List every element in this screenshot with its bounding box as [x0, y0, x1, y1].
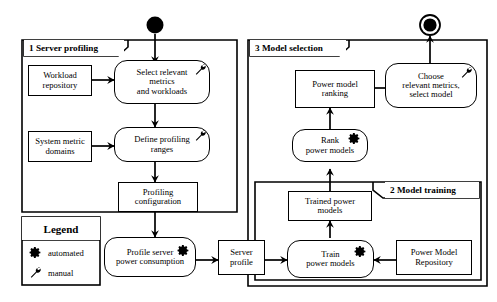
node-rank-power-models[interactable]: Rankpower models: [292, 129, 368, 162]
wrench-icon: [194, 63, 207, 76]
legend-item-manual: manual: [29, 266, 73, 279]
gear-icon: [29, 246, 42, 259]
node-label: Trained powermodels: [305, 197, 355, 216]
node-label: Power modelranking: [312, 80, 358, 99]
node-label: Chooserelevant metrics,select model: [402, 72, 459, 100]
node-label: Select relevantmetricsand workloads: [137, 68, 188, 96]
wrench-icon: [460, 66, 473, 79]
node-system-metric-domains[interactable]: System metricdomains: [28, 131, 92, 162]
node-select-metrics[interactable]: Select relevantmetricsand workloads: [114, 60, 210, 104]
node-label: Trainpower models: [306, 250, 354, 269]
legend-label-manual: manual: [48, 268, 73, 278]
node-label: Serverprofile: [230, 248, 253, 267]
node-label: Profile serverpower consumption: [116, 248, 184, 267]
end-node: [420, 15, 440, 35]
frame-label-server-profiling: 1 Server profiling: [24, 40, 124, 56]
legend-label-automated: automated: [48, 248, 84, 258]
legend-title: Legend: [22, 217, 100, 240]
start-node: [147, 17, 164, 34]
node-profiling-configuration[interactable]: Profilingconfiguration: [118, 182, 198, 212]
node-choose-metrics[interactable]: Chooserelevant metrics,select model: [385, 63, 477, 108]
legend-item-automated: automated: [29, 246, 84, 259]
node-label: Define profilingranges: [134, 135, 190, 154]
gear-icon: [354, 245, 367, 258]
wrench-icon: [194, 129, 207, 142]
frame-label-model-training: 2 Model training: [385, 182, 479, 198]
gear-icon: [177, 244, 190, 257]
node-label: Profilingconfiguration: [135, 188, 181, 207]
node-label: Power ModelRepository: [411, 248, 458, 267]
node-power-model-repository[interactable]: Power ModelRepository: [396, 240, 472, 275]
node-label: Workloadrepository: [43, 71, 78, 90]
wrench-icon: [29, 266, 42, 279]
node-trained-power-models[interactable]: Trained powermodels: [288, 191, 372, 221]
node-workload-repository[interactable]: Workloadrepository: [28, 65, 92, 96]
node-label: Rankpower models: [306, 136, 354, 155]
gear-icon: [348, 132, 361, 145]
node-define-profiling-ranges[interactable]: Define profilingranges: [114, 127, 210, 162]
node-train-power-models[interactable]: Trainpower models: [287, 240, 374, 278]
node-power-model-ranking[interactable]: Power modelranking: [295, 70, 375, 108]
node-profile-server[interactable]: Profile serverpower consumption: [104, 237, 196, 277]
activity-diagram: 1 Server profiling 3 Model selection 2 M…: [0, 0, 497, 302]
node-label: System metricdomains: [35, 137, 84, 156]
node-server-profile[interactable]: Serverprofile: [218, 240, 265, 275]
frame-label-model-selection: 3 Model selection: [250, 40, 346, 56]
